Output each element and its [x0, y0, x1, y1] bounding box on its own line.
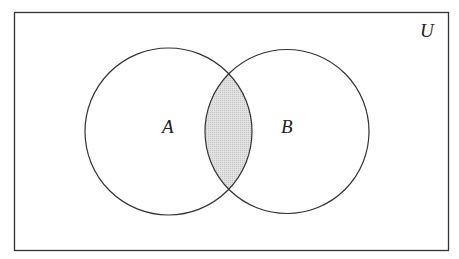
- venn-diagram: A B U: [0, 0, 459, 259]
- universe-label: U: [420, 20, 435, 41]
- set-b-label: B: [281, 116, 293, 137]
- set-a-label: A: [160, 116, 174, 137]
